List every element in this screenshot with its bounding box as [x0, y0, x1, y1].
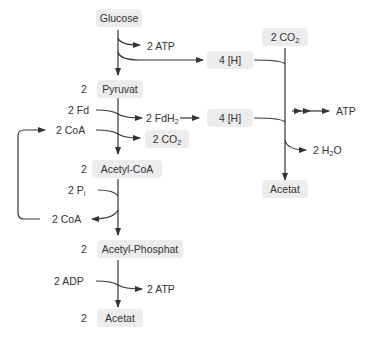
arrow-fd-to-fdh2 — [96, 110, 142, 118]
pi-text: 2 P — [68, 184, 84, 196]
label-pi: 2 Pi — [68, 183, 85, 197]
label-fd: 2 Fd — [68, 103, 89, 117]
arrow-h-top-merge — [254, 60, 285, 64]
arrow-h-mid-merge — [254, 118, 285, 122]
acetylcoa-coefficient: 2 — [81, 162, 87, 176]
node-pyruvat: Pyruvat — [97, 80, 143, 98]
node-h-mid: 4 [H] — [207, 109, 253, 127]
label-adp: 2 ADP — [54, 274, 84, 288]
label-coa-out: 2 CoA — [52, 212, 81, 226]
label-atp-1: 2 ATP — [147, 39, 175, 53]
pi-subscript: i — [84, 189, 86, 198]
node-h-top: 4 [H] — [207, 51, 253, 69]
h2o-text: 2 H — [313, 144, 329, 156]
node-co2-mid: 2 CO2 — [145, 130, 189, 148]
node-acetyl-coa: Acetyl-CoA — [92, 160, 162, 178]
co2-mid-subscript: 2 — [177, 138, 181, 147]
co2-top-text: CO — [279, 31, 295, 43]
node-glucose: Glucose — [96, 9, 142, 27]
acetylphosphat-coefficient: 2 — [81, 242, 87, 256]
arrow-to-atp-1 — [118, 38, 140, 45]
fdh2-text: 2 FdH — [146, 112, 175, 124]
label-h2o: 2 H2O — [313, 143, 342, 157]
node-acetat-left: Acetat — [97, 309, 143, 327]
label-coa-in: 2 CoA — [56, 123, 85, 137]
arrow-pi-in — [98, 190, 118, 196]
co2-top-coefficient: 2 — [271, 31, 277, 43]
acetat-left-coefficient: 2 — [81, 311, 87, 325]
label-atp-2: 2 ATP — [147, 282, 175, 296]
co2-top-subscript: 2 — [295, 36, 299, 45]
co2-mid-text: CO — [161, 133, 177, 145]
fdh2-subscript: 2 — [175, 117, 179, 126]
pyruvat-coefficient: 2 — [81, 82, 87, 96]
arrow-to-h-top — [118, 52, 203, 60]
acetate-fermentation-diagram: Glucose 2 Pyruvat 2 Acetyl-CoA 2 Acetyl-… — [0, 0, 368, 338]
arrow-to-h2o — [285, 140, 306, 150]
node-acetat-right: Acetat — [262, 180, 308, 198]
arrow-adp-to-atp — [96, 281, 142, 289]
node-acetyl-phosphat: Acetyl-Phosphat — [97, 240, 183, 258]
arrow-coa-recycle — [18, 130, 45, 219]
node-co2-top: 2 CO2 — [262, 28, 308, 46]
h2o-tail: O — [334, 144, 342, 156]
label-fdh2: 2 FdH2 — [146, 111, 179, 125]
arrow-coa-out — [92, 210, 118, 219]
label-atp-right: ATP — [336, 104, 356, 118]
co2-mid-coefficient: 2 — [153, 133, 159, 145]
